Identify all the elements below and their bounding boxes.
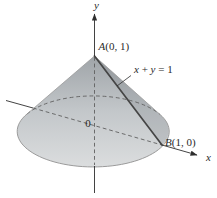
apex-point-coords: (0, 1) bbox=[105, 40, 129, 53]
origin-label: 0 bbox=[85, 117, 91, 129]
cone-figure-canvas: y A(0, 1) x + y = 1 0 B(1, 0) x bbox=[0, 0, 217, 198]
apex-point-label: A(0, 1) bbox=[98, 40, 130, 53]
y-axis-label: y bbox=[93, 0, 99, 11]
equation-equals: = 1 bbox=[156, 63, 173, 75]
equation-plus: + bbox=[139, 63, 151, 75]
cone-figure: y A(0, 1) x + y = 1 0 B(1, 0) x bbox=[0, 0, 217, 198]
base-point-label: B(1, 0) bbox=[165, 136, 196, 149]
x-axis-label: x bbox=[205, 151, 211, 163]
base-point-coords: (1, 0) bbox=[172, 136, 196, 149]
equation-label: x + y = 1 bbox=[133, 63, 173, 75]
